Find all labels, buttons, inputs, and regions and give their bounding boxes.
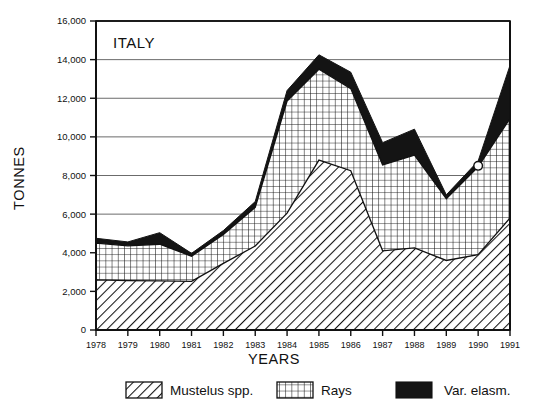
y-tick-label: 2,000 bbox=[62, 286, 86, 297]
y-tick-label: 8,000 bbox=[62, 170, 86, 181]
legend-label-mustelus: Mustelus spp. bbox=[170, 383, 253, 398]
y-tick-label: 6,000 bbox=[62, 209, 86, 220]
x-tick-label: 1987 bbox=[373, 340, 393, 350]
y-tick-label: 0 bbox=[81, 324, 86, 335]
x-tick-label: 1982 bbox=[213, 340, 233, 350]
x-tick-label: 1983 bbox=[245, 340, 265, 350]
y-tick-label: 10,000 bbox=[57, 131, 86, 142]
legend-swatch-rays bbox=[277, 382, 313, 398]
hole-punch-marker bbox=[474, 162, 483, 171]
legend-label-rays: Rays bbox=[321, 383, 352, 398]
x-tick-label: 1980 bbox=[150, 340, 170, 350]
x-tick-label: 1990 bbox=[468, 340, 488, 350]
x-tick-label: 1978 bbox=[86, 340, 106, 350]
x-tick-label: 1985 bbox=[309, 340, 329, 350]
y-axis-title: TONNES bbox=[11, 146, 27, 210]
x-tick-label: 1984 bbox=[277, 340, 297, 350]
x-axis-title: YEARS bbox=[248, 351, 300, 367]
y-tick-label: 16,000 bbox=[57, 15, 86, 26]
x-tick-label: 1989 bbox=[436, 340, 456, 350]
stacked-area-chart: 02,0004,0006,0008,00010,00012,00014,0001… bbox=[0, 0, 549, 418]
y-tick-label: 12,000 bbox=[57, 93, 86, 104]
legend-swatch-var-elasm bbox=[396, 382, 432, 398]
legend-swatch-mustelus bbox=[126, 382, 162, 398]
y-tick-label: 14,000 bbox=[57, 54, 86, 65]
x-tick-label: 1979 bbox=[118, 340, 138, 350]
x-tick-label: 1991 bbox=[500, 340, 520, 350]
legend-label-var-elasm: Var. elasm. bbox=[444, 383, 511, 398]
x-tick-label: 1981 bbox=[182, 340, 202, 350]
x-tick-label: 1988 bbox=[404, 340, 424, 350]
chart-figure: 02,0004,0006,0008,00010,00012,00014,0001… bbox=[0, 0, 549, 418]
x-tick-label: 1986 bbox=[341, 340, 361, 350]
panel-title: ITALY bbox=[113, 34, 155, 51]
y-tick-label: 4,000 bbox=[62, 247, 86, 258]
